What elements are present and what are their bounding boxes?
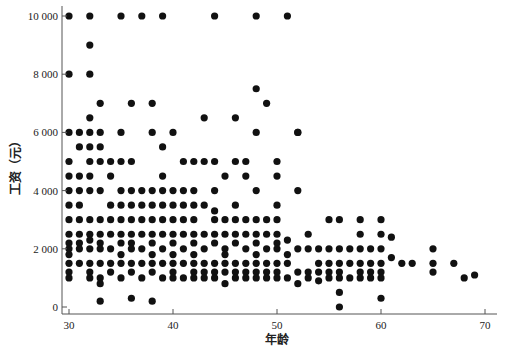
data-point [211,239,218,246]
data-point [86,42,93,49]
data-point [86,216,93,223]
data-point [149,129,156,136]
data-point [357,245,364,252]
data-point [97,129,104,136]
data-point [242,231,249,238]
data-point [284,12,291,19]
data-point [190,260,197,267]
data-point [211,187,218,194]
data-point [242,260,249,267]
data-point [253,251,260,258]
data-point [107,172,114,179]
data-point [461,274,468,281]
data-point [346,260,353,267]
data-point [138,12,145,19]
data-point [253,231,260,238]
data-point [357,216,364,223]
data-point [253,12,260,19]
data-point [273,260,280,267]
data-point [305,245,312,252]
data-point [263,274,270,281]
data-point [190,216,197,223]
data-point [190,239,197,246]
data-point [336,260,343,267]
data-point [76,143,83,150]
x-tick-label: 70 [480,319,492,331]
data-point [159,202,166,209]
data-point [76,129,83,136]
data-point [76,245,83,252]
data-point [377,231,384,238]
data-point [315,260,322,267]
data-point [97,158,104,165]
data-point [346,274,353,281]
data-point [149,216,156,223]
data-point [65,274,72,281]
x-tick-label: 40 [168,319,180,331]
data-point [97,245,104,252]
data-point [253,274,260,281]
y-tick-label: 10 000 [28,10,59,22]
data-point [117,274,124,281]
data-point [273,202,280,209]
data-point [107,260,114,267]
data-point [429,260,436,267]
x-tick-label: 30 [64,319,76,331]
data-point [242,245,249,252]
data-point [336,289,343,296]
data-point [294,129,301,136]
data-point [190,202,197,209]
data-point [388,234,395,241]
data-point [450,260,457,267]
y-tick-label: 6 000 [33,126,58,138]
data-point [86,12,93,19]
data-point [97,260,104,267]
data-point [336,216,343,223]
data-point [149,268,156,275]
data-point [211,207,218,214]
data-point [159,187,166,194]
data-point [273,216,280,223]
data-point [190,187,197,194]
data-point [76,187,83,194]
data-point [128,216,135,223]
data-point [180,187,187,194]
y-tick-label: 2 000 [33,243,58,255]
data-point [221,268,228,275]
data-point [273,231,280,238]
data-point [336,303,343,310]
data-point [294,245,301,252]
data-point [201,245,208,252]
x-axis: 3040506070 [62,309,497,331]
data-point [149,251,156,258]
data-point [149,239,156,246]
data-point [169,202,176,209]
data-point [263,216,270,223]
data-point [117,12,124,19]
data-point [117,202,124,209]
data-point [305,274,312,281]
data-point [190,274,197,281]
data-point [86,143,93,150]
data-point [357,260,364,267]
data-point [86,114,93,121]
data-point [159,216,166,223]
data-point [117,260,124,267]
data-point [325,216,332,223]
data-point [201,260,208,267]
data-point [128,268,135,275]
data-point [201,202,208,209]
data-point [201,274,208,281]
data-point [107,158,114,165]
data-point [232,158,239,165]
data-point [128,187,135,194]
data-point [429,268,436,275]
data-point [117,231,124,238]
y-tick-label: 8 000 [33,68,58,80]
data-point [377,274,384,281]
data-point [169,260,176,267]
data-point [180,274,187,281]
data-point [159,231,166,238]
data-point [273,274,280,281]
data-point [138,231,145,238]
